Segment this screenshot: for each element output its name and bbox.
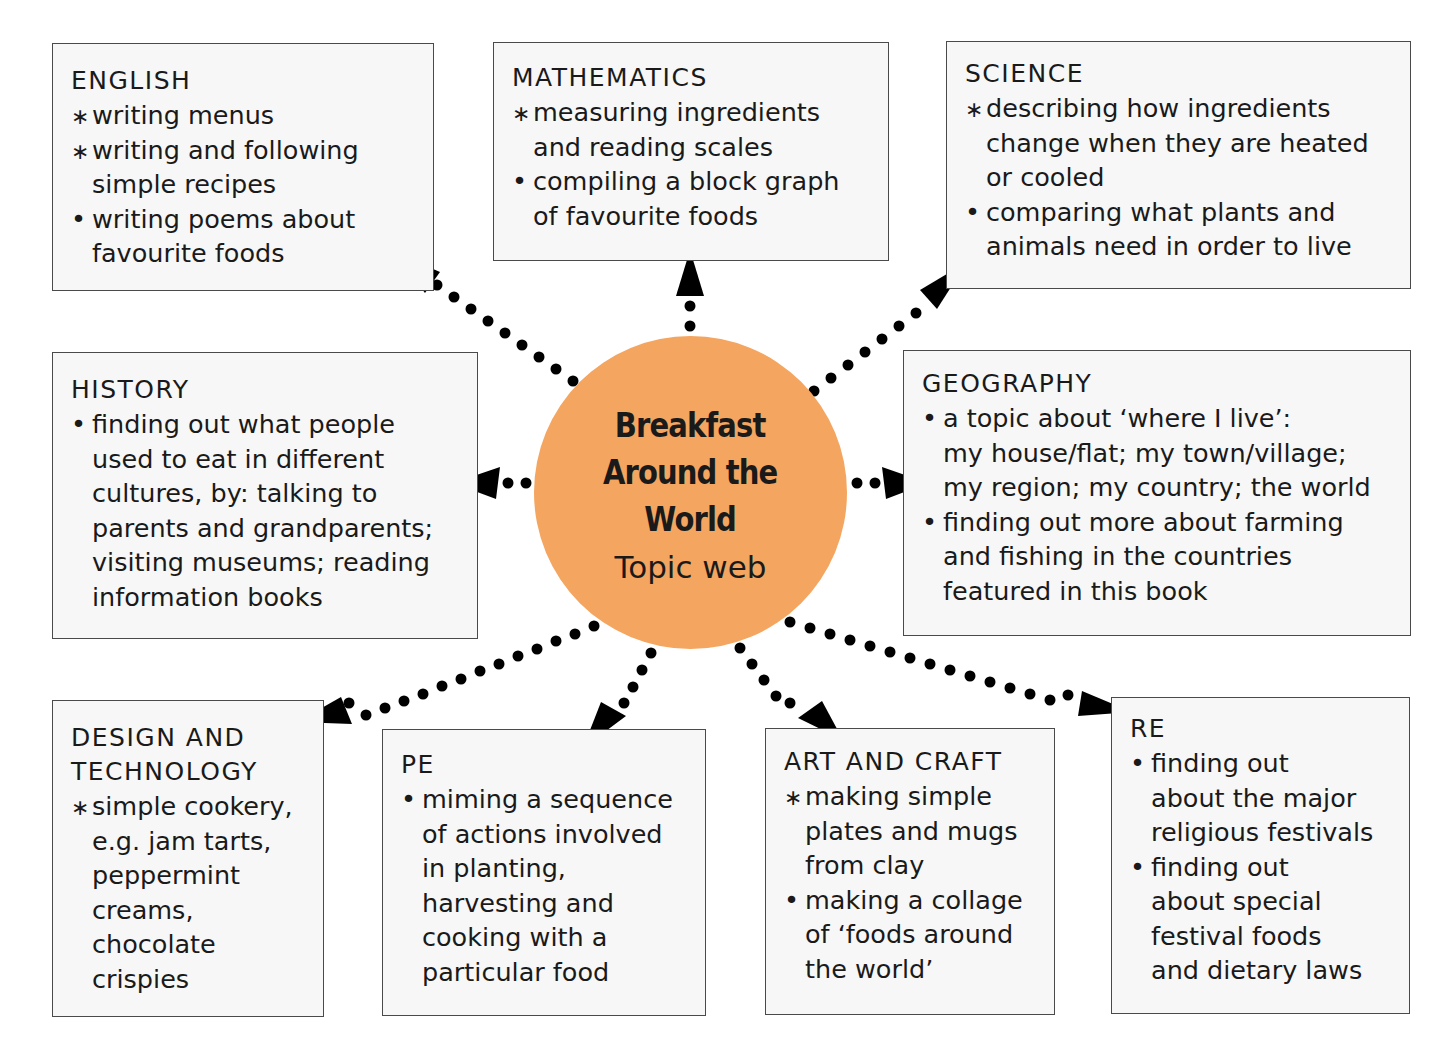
- activity-item: writing and following simple recipes: [71, 133, 419, 202]
- activity-item: finding out about special festival foods…: [1130, 850, 1395, 988]
- subject-title: PE: [401, 748, 691, 782]
- arrow-to-art-craft: [735, 643, 844, 741]
- subject-box-pe: PE miming a sequence of actions involved…: [382, 729, 706, 1016]
- arrow-to-mathematics: [676, 250, 704, 332]
- bullet-marker-icon: [71, 407, 91, 442]
- subject-box-science: SCIENCE describing how ingredients chang…: [946, 41, 1411, 289]
- activity-item: finding out what people used to eat in d…: [71, 407, 463, 614]
- activity-item: a topic about ‘where I live’: my house/f…: [922, 401, 1396, 505]
- star-marker-icon: [512, 95, 532, 132]
- subject-box-re: RE finding out about the major religious…: [1111, 697, 1410, 1014]
- subject-title: DESIGN AND TECHNOLOGY: [71, 721, 309, 789]
- bullet-marker-icon: [512, 164, 532, 199]
- activity-list: writing menus writing and following simp…: [71, 98, 419, 271]
- activity-item: describing how ingredients change when t…: [965, 91, 1396, 195]
- bullet-marker-icon: [1130, 850, 1150, 885]
- subject-title: MATHEMATICS: [512, 61, 874, 95]
- subject-title: ART AND CRAFT: [784, 745, 1040, 779]
- subject-box-history: HISTORY finding out what people used to …: [52, 352, 478, 639]
- subject-box-mathematics: MATHEMATICS measuring ingredients and re…: [493, 42, 889, 261]
- activity-list: describing how ingredients change when t…: [965, 91, 1396, 264]
- activity-list: miming a sequence of actions involved in…: [401, 782, 691, 989]
- bullet-marker-icon: [401, 782, 421, 817]
- subject-title: ENGLISH: [71, 64, 419, 98]
- hub-title: Breakfast Around the World: [603, 402, 777, 543]
- hub-subtitle: Topic web: [615, 547, 767, 587]
- star-marker-icon: [71, 789, 91, 826]
- activity-item: miming a sequence of actions involved in…: [401, 782, 691, 989]
- bullet-marker-icon: [1130, 746, 1150, 781]
- activity-item: finding out about the major religious fe…: [1130, 746, 1395, 850]
- activity-list: making simple plates and mugs from clay …: [784, 779, 1040, 986]
- bullet-marker-icon: [71, 202, 91, 237]
- activity-item: measuring ingredients and reading scales: [512, 95, 874, 164]
- subject-box-design-technology: DESIGN AND TECHNOLOGY simple cookery, e.…: [52, 700, 324, 1017]
- subject-title: SCIENCE: [965, 57, 1396, 91]
- subject-title: RE: [1130, 712, 1395, 746]
- star-marker-icon: [784, 779, 804, 816]
- activity-item: making a collage of ‘foods around the wo…: [784, 883, 1040, 987]
- subject-box-geography: GEOGRAPHY a topic about ‘where I live’: …: [903, 350, 1411, 636]
- activity-item: writing menus: [71, 98, 419, 133]
- activity-item: making simple plates and mugs from clay: [784, 779, 1040, 883]
- activity-list: measuring ingredients and reading scales…: [512, 95, 874, 233]
- star-marker-icon: [965, 91, 985, 128]
- activity-item: finding out more about farming and fishi…: [922, 505, 1396, 609]
- activity-list: finding out about the major religious fe…: [1130, 746, 1395, 988]
- bullet-marker-icon: [922, 505, 942, 540]
- activity-list: a topic about ‘where I live’: my house/f…: [922, 401, 1396, 608]
- activity-item: writing poems about favourite foods: [71, 202, 419, 271]
- star-marker-icon: [71, 98, 91, 135]
- star-marker-icon: [71, 133, 91, 170]
- subject-box-english: ENGLISH writing menus writing and follow…: [52, 43, 434, 291]
- topic-hub-circle: Breakfast Around the World Topic web: [534, 336, 847, 649]
- subject-box-art-craft: ART AND CRAFT making simple plates and m…: [765, 728, 1055, 1015]
- subject-title: GEOGRAPHY: [922, 367, 1396, 401]
- bullet-marker-icon: [965, 195, 985, 230]
- activity-item: compiling a block graph of favourite foo…: [512, 164, 874, 233]
- activity-item: comparing what plants and animals need i…: [965, 195, 1396, 264]
- bullet-marker-icon: [784, 883, 804, 918]
- activity-item: simple cookery, e.g. jam tarts, peppermi…: [71, 789, 309, 996]
- activity-list: simple cookery, e.g. jam tarts, peppermi…: [71, 789, 309, 996]
- activity-list: finding out what people used to eat in d…: [71, 407, 463, 614]
- bullet-marker-icon: [922, 401, 942, 436]
- subject-title: HISTORY: [71, 373, 463, 407]
